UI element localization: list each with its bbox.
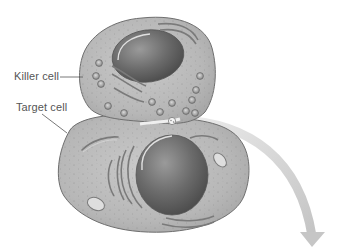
target-nucleus <box>136 135 208 215</box>
cell-illustration <box>0 0 354 252</box>
target-cell-leader-line <box>42 114 67 133</box>
target-cell-label: Target cell <box>16 101 67 113</box>
killer-cell-label: Killer cell <box>14 70 59 82</box>
killer-cell <box>80 17 216 123</box>
target-cell <box>58 115 249 232</box>
diagram-canvas: Killer cell Target cell <box>0 0 354 252</box>
